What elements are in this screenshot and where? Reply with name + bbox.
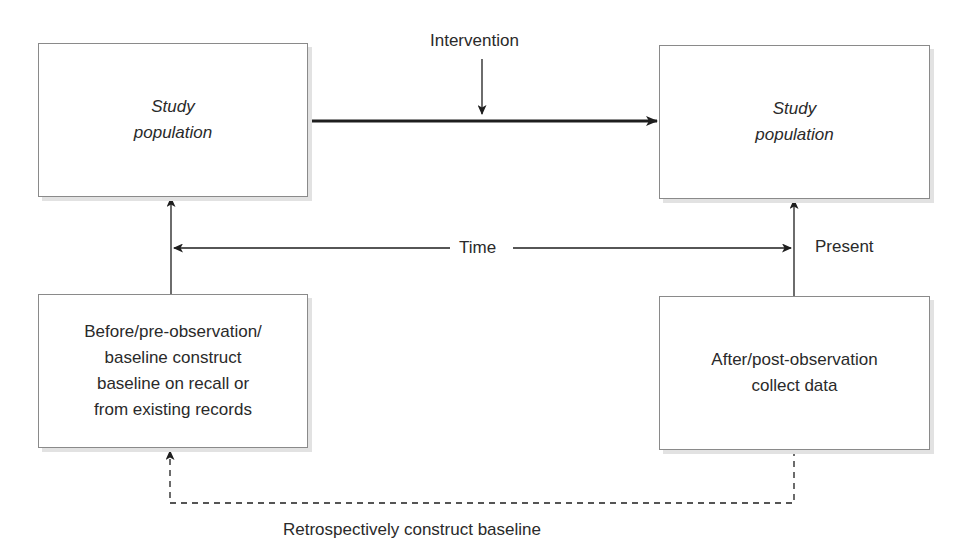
box-text: baseline on recall or — [97, 374, 249, 393]
box-text: population — [134, 123, 212, 142]
post-observation-box: After/post-observation collect data — [659, 296, 930, 450]
box-text: collect data — [752, 376, 838, 395]
box-text: Before/pre-observation/ — [84, 322, 262, 341]
study-population-before-box: Studypopulation — [38, 43, 308, 197]
box-text: Study — [773, 99, 816, 118]
pre-observation-box: Before/pre-observation/ baseline constru… — [38, 294, 308, 448]
study-population-after-box: Studypopulation — [659, 45, 930, 199]
present-label: Present — [815, 237, 874, 257]
retrospective-label: Retrospectively construct baseline — [283, 520, 541, 540]
time-label: Time — [459, 238, 496, 258]
box-text: from existing records — [94, 400, 252, 419]
intervention-label: Intervention — [430, 31, 519, 51]
box-text: Study — [151, 97, 194, 116]
box-text: After/post-observation — [711, 350, 877, 369]
retrospective-dashed-path — [170, 450, 794, 503]
box-text: baseline construct — [104, 348, 241, 367]
box-text: population — [755, 125, 833, 144]
